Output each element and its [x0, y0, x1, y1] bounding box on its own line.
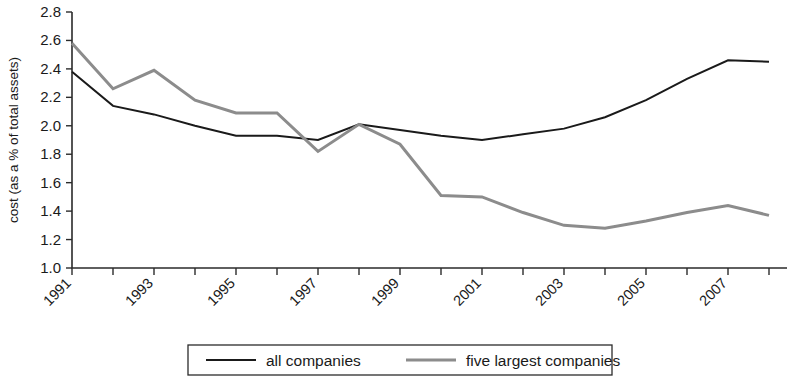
- y-tick-label: 2.6: [40, 31, 61, 48]
- data-series: [72, 43, 769, 228]
- series-line: [72, 43, 769, 228]
- legend-label: five largest companies: [466, 352, 620, 369]
- x-axis-ticks: 199119931995199719992001200320052007: [40, 268, 769, 309]
- y-tick-label: 1.0: [40, 259, 61, 276]
- y-axis-ticks: 1.01.21.41.61.82.02.22.42.62.8: [40, 3, 72, 276]
- legend-label: all companies: [266, 352, 361, 369]
- x-tick-label: 1999: [368, 275, 402, 309]
- chart-figure: cost (as a % of total assets) 1.01.21.41…: [0, 0, 799, 379]
- x-tick-label: 2003: [532, 275, 566, 309]
- y-tick-label: 1.8: [40, 145, 61, 162]
- y-tick-label: 1.4: [40, 202, 61, 219]
- x-tick-label: 1993: [122, 275, 156, 309]
- series-line: [72, 60, 769, 140]
- x-tick-label: 2007: [696, 275, 730, 309]
- axes: [72, 12, 787, 268]
- x-tick-label: 1995: [204, 275, 238, 309]
- chart-legend: all companiesfive largest companies: [188, 345, 620, 375]
- y-tick-label: 1.2: [40, 231, 61, 248]
- axis-lines: [72, 12, 787, 268]
- x-tick-label: 2005: [614, 275, 648, 309]
- y-tick-label: 2.0: [40, 117, 61, 134]
- y-axis-label: cost (as a % of total assets): [6, 57, 21, 223]
- y-axis-title: cost (as a % of total assets): [6, 57, 21, 223]
- x-tick-label: 2001: [450, 275, 484, 309]
- y-tick-label: 1.6: [40, 174, 61, 191]
- x-tick-label: 1991: [40, 275, 74, 309]
- y-tick-label: 2.2: [40, 88, 61, 105]
- x-tick-label: 1997: [286, 275, 320, 309]
- y-tick-label: 2.8: [40, 3, 61, 20]
- y-tick-label: 2.4: [40, 60, 61, 77]
- line-chart: cost (as a % of total assets) 1.01.21.41…: [0, 0, 799, 379]
